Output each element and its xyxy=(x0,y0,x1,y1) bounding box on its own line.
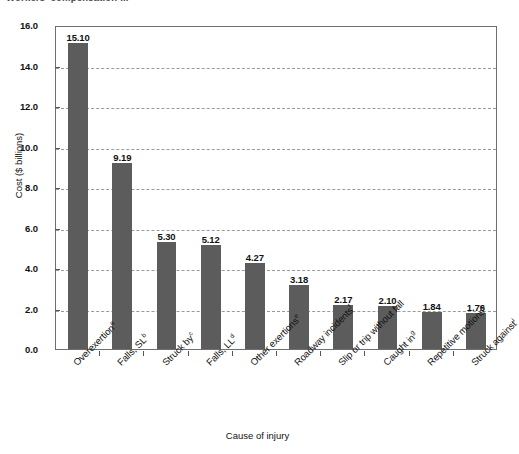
x-axis-tick-mark xyxy=(320,351,321,356)
plot-area: 15.109.195.305.124.273.182.172.101.841.7… xyxy=(55,26,497,350)
y-axis-tick-label: 8.0 xyxy=(25,182,38,193)
bar-value-label: 15.10 xyxy=(56,32,100,43)
bar-value-label: 2.17 xyxy=(321,294,365,305)
y-axis-tick-label: 2.0 xyxy=(25,304,38,315)
y-axis-tick-label: 14.0 xyxy=(20,61,38,72)
bar xyxy=(422,312,442,349)
y-axis-tick-label: 16.0 xyxy=(20,20,38,31)
y-axis-tick-mark xyxy=(55,148,60,149)
y-axis-tick-label: 4.0 xyxy=(25,263,38,274)
bar-value-label: 1.84 xyxy=(410,301,454,312)
y-axis-tick-mark xyxy=(55,67,60,68)
x-axis-tick-mark xyxy=(143,351,144,356)
bar xyxy=(245,263,265,349)
y-axis-tick-label: 6.0 xyxy=(25,223,38,234)
bars-layer: 15.109.195.305.124.273.182.172.101.841.7… xyxy=(56,27,496,349)
bar-value-label: 4.27 xyxy=(233,252,277,263)
bar xyxy=(112,163,132,349)
y-axis-tick-mark xyxy=(55,269,60,270)
x-axis-tick-mark xyxy=(409,351,410,356)
bar xyxy=(201,245,221,349)
x-axis-tick-mark xyxy=(364,351,365,356)
y-axis-tick-mark xyxy=(55,107,60,108)
y-axis-tick-mark xyxy=(55,310,60,311)
y-axis-tick-mark xyxy=(55,229,60,230)
bar-value-label: 5.30 xyxy=(145,231,189,242)
bar-value-label: 5.12 xyxy=(189,234,233,245)
y-axis-tick-labels: 0.02.04.06.08.010.012.014.016.0 xyxy=(0,0,50,454)
y-axis-tick-label: 0.0 xyxy=(25,344,38,355)
bar-value-label: 9.19 xyxy=(100,152,144,163)
bar xyxy=(68,43,88,349)
bar xyxy=(157,242,177,349)
x-axis-tick-mark xyxy=(232,351,233,356)
x-axis-tick-mark xyxy=(188,351,189,356)
x-axis-tick-mark xyxy=(453,351,454,356)
x-axis-title: Cause of injury xyxy=(0,430,515,441)
x-axis-tick-mark xyxy=(99,351,100,356)
bar-value-label: 3.18 xyxy=(277,274,321,285)
y-axis-title: Cost ($ billions) xyxy=(13,86,24,246)
x-axis-tick-mark xyxy=(276,351,277,356)
y-axis-tick-mark xyxy=(55,188,60,189)
